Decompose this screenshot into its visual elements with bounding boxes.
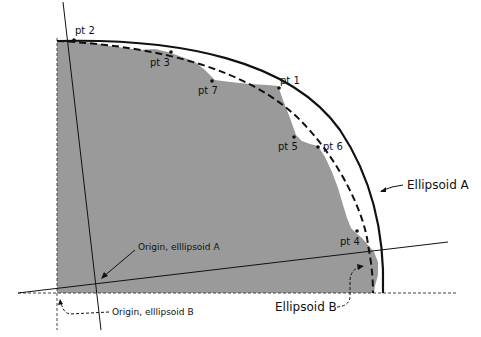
origin-b-arrow bbox=[61, 302, 109, 314]
label-pt3: pt 3 bbox=[150, 57, 170, 68]
label-origin-b: Origin, elllipsoid B bbox=[112, 307, 194, 317]
terrain-region bbox=[57, 40, 378, 293]
label-pt2: pt 2 bbox=[75, 25, 95, 36]
label-pt5: pt 5 bbox=[278, 141, 298, 152]
ellipsoid-a-arrowhead bbox=[380, 187, 386, 192]
origin-b-arrowhead bbox=[58, 299, 63, 305]
label-pt7: pt 7 bbox=[198, 85, 218, 96]
label-pt6: pt 6 bbox=[323, 141, 343, 152]
ellipsoid-diagram: pt 2 pt 3 pt 7 pt 1 pt 5 pt 6 pt 4 Ellip… bbox=[0, 0, 481, 337]
label-pt4: pt 4 bbox=[340, 236, 360, 247]
label-origin-a: Origin, elllipsoid A bbox=[138, 242, 220, 252]
label-pt1: pt 1 bbox=[280, 75, 300, 86]
label-ellipsoid-b: Ellipsoid B bbox=[275, 300, 337, 314]
label-ellipsoid-a: Ellipsoid A bbox=[407, 178, 470, 192]
